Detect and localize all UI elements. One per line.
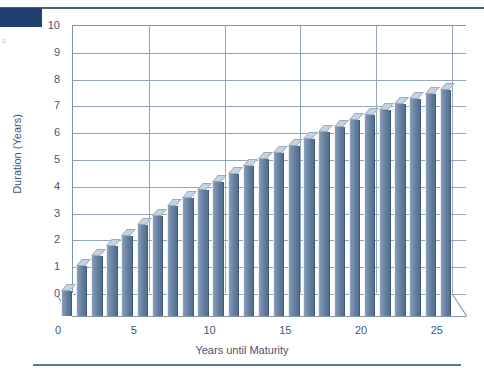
duration-bar-chart: 012345678910 0510152025 Years until Matu…: [0, 0, 484, 379]
y-tick-label: 0: [38, 288, 60, 299]
x-tick-label: 25: [422, 325, 452, 336]
x-tick-label: 0: [43, 325, 73, 336]
y-tick-label: 1: [38, 261, 60, 272]
page-container: s 012345678910 0510152025 Years until Ma…: [0, 0, 484, 379]
gridline-horizontal: [73, 160, 466, 161]
plot-area: [72, 25, 466, 293]
x-tick-label: 5: [119, 325, 149, 336]
x-tick-label: 20: [346, 325, 376, 336]
y-tick-label: 10: [38, 20, 60, 31]
gridline-horizontal: [73, 106, 466, 107]
gridline-vertical: [376, 26, 377, 293]
gridline-vertical: [149, 26, 150, 293]
y-tick-label: 4: [38, 181, 60, 192]
x-axis-title: Years until Maturity: [0, 344, 484, 356]
floor-right-edge: [452, 293, 470, 318]
x-axis-line: [72, 316, 466, 317]
gridline-vertical: [300, 26, 301, 293]
y-tick-label: 2: [38, 234, 60, 245]
y-tick-label: 6: [38, 127, 60, 138]
y-tick-label: 8: [38, 74, 60, 85]
bottom-divider-rule: [33, 364, 461, 366]
y-axis-title: Duration (Years): [11, 94, 23, 214]
gridline-horizontal: [73, 187, 466, 188]
gridline-horizontal: [73, 214, 466, 215]
floor-left-edge: [58, 293, 74, 317]
gridline-horizontal: [73, 240, 466, 241]
gridline-horizontal: [73, 133, 466, 134]
y-tick-label: 7: [38, 100, 60, 111]
gridline-horizontal: [73, 80, 466, 81]
gridline-horizontal: [73, 53, 466, 54]
y-tick-label: 5: [38, 154, 60, 165]
y-tick-label: 3: [38, 208, 60, 219]
gridline-vertical: [452, 26, 453, 293]
y-tick-label: 9: [38, 47, 60, 58]
gridline-horizontal: [73, 294, 466, 295]
gridline-horizontal: [73, 267, 466, 268]
gridline-vertical: [225, 26, 226, 293]
x-tick-label: 15: [270, 325, 300, 336]
x-tick-label: 10: [195, 325, 225, 336]
